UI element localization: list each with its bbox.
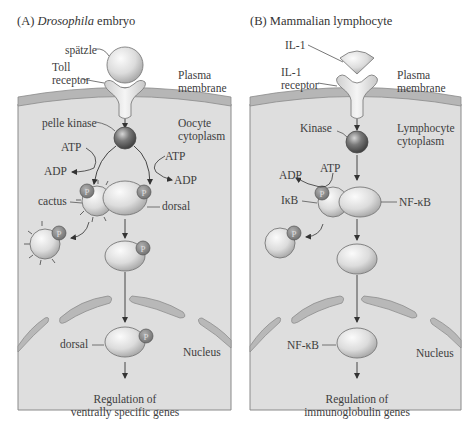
- label-spatzle: spätzle: [65, 44, 97, 57]
- label-plasma-a: Plasma: [178, 69, 211, 82]
- label-adp-left: ADP: [44, 165, 67, 178]
- label-regulation-b-line2: immunoglobulin genes: [282, 406, 432, 419]
- label-nfkb-nuclear: NF-κB: [287, 339, 319, 352]
- svg-text:P: P: [84, 187, 89, 197]
- label-il1-receptor-line2: receptor: [281, 79, 319, 92]
- label-nucleus-b: Nucleus: [416, 347, 454, 360]
- svg-text:P: P: [143, 332, 148, 342]
- label-lymphocyte: Lymphocyte: [397, 122, 455, 135]
- label-nucleus-a: Nucleus: [183, 346, 221, 359]
- panel-a-title-organism: Drosophila: [37, 14, 94, 28]
- svg-text:P: P: [141, 188, 146, 198]
- nfkb-factor: [339, 187, 381, 217]
- nfkb-free: [337, 244, 377, 274]
- label-regulation-b-line1: Regulation of: [282, 393, 432, 406]
- label-ikb: IκB: [281, 194, 298, 207]
- panel-b-title: (B) Mammalian lymphocyte: [250, 14, 392, 29]
- label-toll-receptor: receptor: [52, 74, 90, 87]
- svg-text:P: P: [140, 244, 145, 254]
- label-regulation-a-line2: ventrally specific genes: [50, 406, 200, 419]
- label-kinase-b: Kinase: [300, 122, 332, 135]
- panel-a-title-prefix: (A): [17, 14, 37, 28]
- label-membrane-a: membrane: [178, 82, 227, 95]
- label-pelle-kinase: pelle kinase: [42, 117, 97, 130]
- label-cytoplasm-b: cytoplasm: [397, 135, 444, 148]
- pelle-kinase: [114, 127, 136, 149]
- label-membrane-b: membrane: [397, 82, 446, 95]
- svg-text:P: P: [291, 229, 296, 239]
- panel-a-title: (A) Drosophila embryo: [17, 14, 135, 29]
- kinase-b: [346, 131, 368, 153]
- svg-text:P: P: [319, 189, 324, 199]
- il1-ligand: [340, 51, 374, 74]
- label-dorsal: dorsal: [162, 200, 190, 213]
- svg-text:P: P: [56, 229, 61, 239]
- signaling-diagram: P P P P P: [0, 0, 470, 432]
- label-oocyte: Oocyte: [178, 117, 211, 130]
- nfkb-nuclear: [337, 328, 377, 358]
- label-il1: IL-1: [285, 39, 305, 52]
- spatzle-ligand: [107, 47, 143, 83]
- label-cytoplasm-a: cytoplasm: [178, 130, 225, 143]
- label-atp-right: ATP: [165, 150, 185, 163]
- label-dorsal-nuclear: dorsal: [60, 338, 88, 351]
- label-regulation-a-line1: Regulation of: [50, 393, 200, 406]
- label-cactus: cactus: [38, 195, 67, 208]
- label-il1-receptor-line1: IL-1: [281, 66, 301, 79]
- panel-a-title-suffix: embryo: [94, 14, 135, 28]
- label-atp-b: ATP: [320, 162, 340, 175]
- label-adp-right: ADP: [174, 174, 197, 187]
- label-atp-left: ATP: [61, 141, 81, 154]
- dorsal-nuclear: [105, 327, 145, 357]
- label-nfkb: NF-κB: [399, 196, 431, 209]
- label-adp-b: ADP: [279, 169, 302, 182]
- label-toll: Toll: [52, 61, 70, 74]
- label-plasma-b: Plasma: [397, 69, 430, 82]
